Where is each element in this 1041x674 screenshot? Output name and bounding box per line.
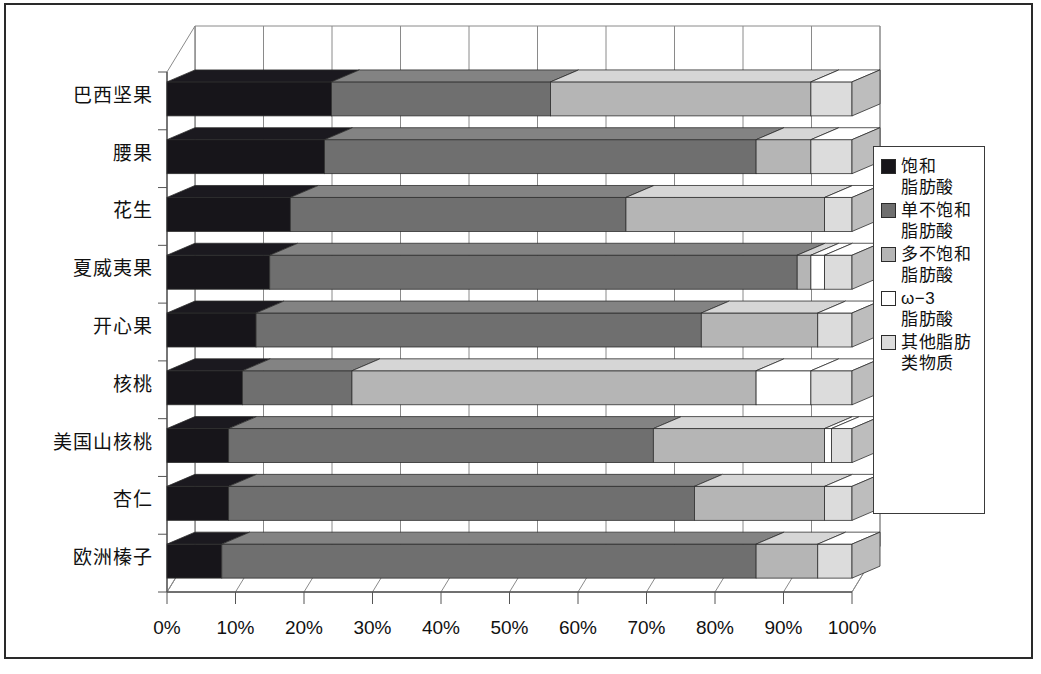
legend-swatch-icon bbox=[881, 335, 896, 350]
bar-segment-front bbox=[167, 82, 331, 116]
bar-segment-front bbox=[825, 486, 852, 520]
bar-segment-front bbox=[331, 82, 550, 116]
bar-segment-front bbox=[242, 371, 352, 405]
legend-item[interactable]: 其他脂肪类物质 bbox=[881, 332, 978, 374]
y-axis-category-label: 开心果 bbox=[93, 317, 153, 336]
bar-segment-front bbox=[167, 140, 325, 174]
bar-segment-top bbox=[270, 243, 825, 255]
bar-segment-top bbox=[626, 185, 853, 197]
bar-segment-top bbox=[653, 417, 852, 429]
y-axis-category-label: 花生 bbox=[113, 201, 153, 220]
bar-segment-top bbox=[551, 70, 839, 82]
bar-segment bbox=[290, 185, 654, 231]
y-axis-category-label: 欧洲榛子 bbox=[73, 548, 153, 567]
bar-segment bbox=[626, 185, 853, 231]
bar-segment-front bbox=[167, 544, 222, 578]
bar-segment-front bbox=[626, 197, 825, 231]
bar-segment-front bbox=[756, 140, 811, 174]
legend-swatch-icon bbox=[881, 247, 896, 262]
bar-segment bbox=[653, 417, 852, 463]
legend-label-line1: 单不饱和 bbox=[901, 201, 971, 220]
bar-row bbox=[167, 474, 880, 520]
bar-segment-front bbox=[352, 371, 756, 405]
bar-segment-top bbox=[290, 185, 654, 197]
bar-row bbox=[167, 70, 880, 116]
bar-segment-front bbox=[811, 255, 825, 289]
x-axis-tick-label: 100% bbox=[812, 618, 892, 637]
legend-label-line1: 饱和 bbox=[901, 157, 936, 176]
bar-segment-front bbox=[825, 255, 852, 289]
bar-segment-top bbox=[256, 301, 729, 313]
bar-segment-top bbox=[325, 128, 785, 140]
bar-row bbox=[167, 359, 880, 405]
bar-segment-top bbox=[167, 70, 359, 82]
bar-segment-front bbox=[701, 313, 817, 347]
bar-segment bbox=[551, 70, 839, 116]
legend-item[interactable]: 多不饱和脂肪酸 bbox=[881, 244, 978, 286]
bar-segment-front bbox=[167, 255, 270, 289]
y-axis-category-label: 杏仁 bbox=[113, 490, 153, 509]
legend-label-line2: 类物质 bbox=[901, 353, 971, 374]
bar-segment-front bbox=[811, 82, 852, 116]
bar-segment bbox=[229, 474, 723, 520]
bar-segment-front bbox=[222, 544, 756, 578]
bar-row bbox=[167, 417, 880, 463]
bar-segment-front bbox=[811, 140, 852, 174]
bar-segment bbox=[352, 359, 784, 405]
bar-segment-front bbox=[551, 82, 811, 116]
bar-segment-front bbox=[825, 197, 852, 231]
bar-segment-front bbox=[825, 429, 832, 463]
bar-segment-front bbox=[653, 429, 824, 463]
bar-segment-front bbox=[167, 197, 290, 231]
bar-segment-top bbox=[229, 474, 723, 486]
bar-segment-front bbox=[831, 429, 852, 463]
legend-label-line2: 脂肪酸 bbox=[901, 221, 971, 242]
legend-swatch-icon bbox=[881, 159, 896, 174]
bar-row bbox=[167, 301, 880, 347]
chart-legend: 饱和脂肪酸单不饱和脂肪酸多不饱和脂肪酸ω−3脂肪酸其他脂肪类物质 bbox=[873, 146, 985, 514]
bar-segment-front bbox=[167, 429, 229, 463]
legend-swatch-icon bbox=[881, 291, 896, 306]
y-axis-category-label: 巴西坚果 bbox=[73, 86, 153, 105]
bar-segment bbox=[331, 70, 578, 116]
legend-item[interactable]: 单不饱和脂肪酸 bbox=[881, 200, 978, 242]
legend-item[interactable]: 饱和脂肪酸 bbox=[881, 156, 978, 198]
bar-segment-front bbox=[167, 486, 229, 520]
y-axis-category-label: 美国山核桃 bbox=[53, 433, 153, 452]
bar-segment-front bbox=[290, 197, 626, 231]
legend-label-line1: 多不饱和 bbox=[901, 245, 971, 264]
y-axis-category-label: 核桃 bbox=[113, 375, 153, 394]
legend-label-line2: 脂肪酸 bbox=[901, 309, 954, 330]
bar-segment-front bbox=[325, 140, 757, 174]
bar-segment-front bbox=[694, 486, 824, 520]
bar-segment-front bbox=[818, 544, 852, 578]
bar-segment-front bbox=[811, 371, 852, 405]
bar-segment-front bbox=[270, 255, 797, 289]
bar-segment bbox=[229, 417, 682, 463]
legend-label-line2: 脂肪酸 bbox=[901, 177, 954, 198]
bar-row bbox=[167, 128, 880, 174]
bar-segment-front bbox=[256, 313, 701, 347]
bar-segment bbox=[325, 128, 785, 174]
bar-segment-top bbox=[229, 417, 682, 429]
bar-segment bbox=[167, 70, 359, 116]
bar-segment-front bbox=[756, 544, 818, 578]
bar-segment-front bbox=[797, 255, 811, 289]
legend-item[interactable]: ω−3脂肪酸 bbox=[881, 288, 978, 330]
bar-segment bbox=[256, 301, 729, 347]
bar-row bbox=[167, 185, 880, 231]
bar-segment-front bbox=[167, 371, 242, 405]
bar-row bbox=[167, 532, 880, 578]
bar-segment-front bbox=[229, 429, 654, 463]
legend-label-line1: ω−3 bbox=[901, 289, 935, 308]
legend-label-line1: 其他脂肪 bbox=[901, 333, 971, 352]
bar-row bbox=[167, 243, 880, 289]
legend-label-line2: 脂肪酸 bbox=[901, 265, 971, 286]
bar-segment-front bbox=[167, 313, 256, 347]
bar-segment-top bbox=[352, 359, 784, 371]
bar-segment-top bbox=[331, 70, 578, 82]
bar-segment bbox=[222, 532, 784, 578]
y-axis-category-label: 腰果 bbox=[113, 144, 153, 163]
y-axis-category-label: 夏威夷果 bbox=[73, 259, 153, 278]
bar-segment-front bbox=[756, 371, 811, 405]
